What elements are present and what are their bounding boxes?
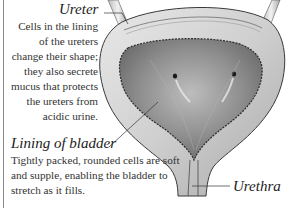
ureter-description: Cells in the lining of the ureters chang…: [8, 19, 98, 124]
lining-label: Lining of bladder: [11, 135, 116, 152]
urethra-label: Urethra: [233, 178, 281, 195]
lining-description: Tightly packed, rounded cells are soft a…: [11, 153, 191, 198]
ureter-label: Ureter: [59, 1, 98, 18]
ureteral-orifice-left: [173, 73, 177, 78]
